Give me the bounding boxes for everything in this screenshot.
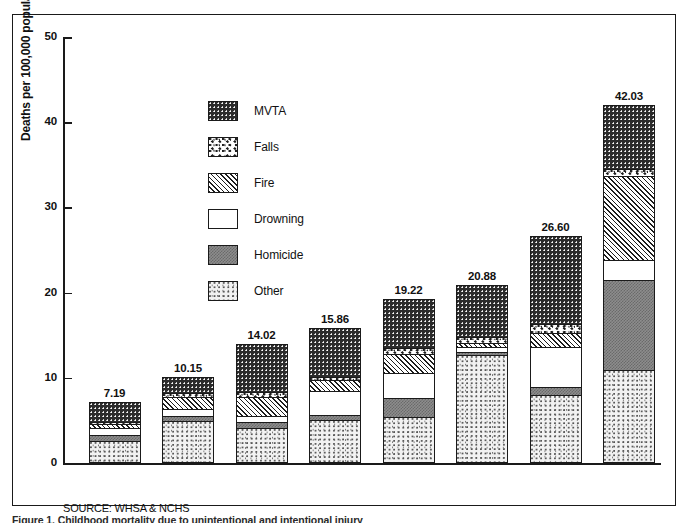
bar-segment-other — [163, 422, 213, 462]
stacked-bar[interactable]: 15.86 — [309, 328, 361, 463]
bar-segment-other — [531, 396, 581, 462]
bar-segment-drowning — [604, 261, 654, 280]
bar-segment-falls — [310, 378, 360, 382]
legend-item-other[interactable]: Other — [208, 273, 358, 309]
bar-series-container: 7.19Sweden10.15England &Wales14.02Scotla… — [65, 37, 661, 463]
bar-total-label: 26.60 — [542, 221, 570, 233]
bar-segment-fire — [457, 344, 507, 348]
bar-total-label: 15.86 — [321, 313, 349, 325]
legend-swatch-fire — [208, 173, 238, 193]
bar-segment-fire — [163, 398, 213, 410]
bar-segment-other — [237, 429, 287, 462]
y-tick-label: 0 — [51, 457, 57, 469]
legend-item-label: MVTA — [254, 104, 286, 118]
bar-segment-falls — [384, 349, 434, 355]
bar-segment-drowning — [90, 429, 140, 436]
bar-segment-mvta — [237, 345, 287, 394]
bar-segment-homicide — [237, 423, 287, 429]
bar-segment-homicide — [384, 399, 434, 418]
stacked-bar[interactable]: 10.15 — [162, 377, 214, 463]
x-axis-line — [63, 463, 661, 465]
bar-segment-drowning — [384, 374, 434, 398]
y-tick-label: 10 — [45, 372, 57, 384]
bar-segment-falls — [604, 170, 654, 177]
bar-segment-mvta — [457, 286, 507, 338]
bar-segment-homicide — [163, 417, 213, 422]
stacked-bar[interactable]: 19.22 — [383, 299, 435, 463]
bar-segment-mvta — [604, 106, 654, 170]
legend-swatch-mvta — [208, 101, 238, 121]
bar-segment-drowning — [163, 410, 213, 418]
bar-segment-other — [604, 371, 654, 462]
legend-swatch-other — [208, 281, 238, 301]
source-note: SOURCE: WHSA & NCHS — [63, 502, 189, 514]
stacked-bar[interactable]: 26.60 — [530, 236, 582, 463]
plot-area: Deaths per 100,000 population 0102030405… — [63, 37, 661, 479]
stacked-bar[interactable]: 7.19 — [89, 402, 141, 463]
bar-segment-mvta — [531, 237, 581, 325]
legend-item-falls[interactable]: Falls — [208, 129, 358, 165]
bar-segment-other — [90, 442, 140, 462]
bar-segment-mvta — [90, 403, 140, 424]
y-tick-mark — [63, 463, 72, 465]
bar-segment-falls — [90, 423, 140, 425]
bar-segment-homicide — [604, 281, 654, 372]
y-tick-label: 40 — [45, 116, 57, 128]
legend-swatch-drowning — [208, 209, 238, 229]
legend-item-homicide[interactable]: Homicide — [208, 237, 358, 273]
bar-total-label: 20.88 — [468, 270, 496, 282]
bar-total-label: 19.22 — [395, 284, 423, 296]
bar-segment-fire — [90, 425, 140, 429]
y-tick-label: 20 — [45, 287, 57, 299]
bar-total-label: 7.19 — [104, 387, 126, 399]
bar-segment-falls — [531, 325, 581, 333]
bar-segment-falls — [163, 394, 213, 398]
bar-segment-fire — [604, 177, 654, 261]
bar-segment-homicide — [531, 388, 581, 396]
y-axis-title: Deaths per 100,000 population — [19, 0, 33, 141]
bar-total-label: 10.15 — [174, 362, 202, 374]
legend-item-drowning[interactable]: Drowning — [208, 201, 358, 237]
bar-segment-falls — [237, 393, 287, 398]
bar-total-label: 14.02 — [248, 329, 276, 341]
y-tick-label: 30 — [45, 202, 57, 214]
bar-segment-other — [457, 356, 507, 462]
legend-swatch-homicide — [208, 245, 238, 265]
legend-swatch-falls — [208, 137, 238, 157]
bar-segment-drowning — [310, 392, 360, 416]
legend-item-mvta[interactable]: MVTA — [208, 93, 358, 129]
bar-segment-drowning — [457, 348, 507, 353]
legend-item-label: Falls — [254, 140, 279, 154]
legend-item-label: Drowning — [254, 212, 304, 226]
bar-segment-fire — [237, 398, 287, 416]
stacked-bar[interactable]: 14.02 — [236, 344, 288, 463]
bar-segment-mvta — [163, 378, 213, 395]
bar-total-label: 42.03 — [615, 90, 643, 102]
bar-segment-drowning — [237, 417, 287, 423]
bar-segment-homicide — [457, 353, 507, 356]
bar-segment-falls — [457, 338, 507, 344]
legend-item-label: Fire — [254, 176, 274, 190]
bar-segment-homicide — [310, 416, 360, 421]
bar-segment-other — [310, 421, 360, 462]
bar-segment-fire — [310, 381, 360, 391]
bar-segment-homicide — [90, 436, 140, 442]
chart-legend: MVTAFallsFireDrowningHomicideOther — [208, 93, 358, 309]
stacked-bar[interactable]: 42.03 — [603, 105, 655, 463]
bar-segment-mvta — [384, 300, 434, 349]
bar-segment-other — [384, 418, 434, 462]
bar-segment-mvta — [310, 329, 360, 378]
bar-segment-fire — [384, 355, 434, 374]
stacked-bar[interactable]: 20.88 — [456, 285, 508, 463]
legend-item-fire[interactable]: Fire — [208, 165, 358, 201]
y-tick-label: 50 — [45, 31, 57, 43]
figure-frame: Deaths per 100,000 population 0102030405… — [12, 14, 676, 506]
legend-item-label: Homicide — [254, 248, 303, 262]
figure-caption: Figure 1. Childhood mortality due to uni… — [12, 514, 672, 523]
legend-item-label: Other — [254, 284, 284, 298]
bar-segment-fire — [531, 334, 581, 348]
bar-segment-drowning — [531, 348, 581, 388]
